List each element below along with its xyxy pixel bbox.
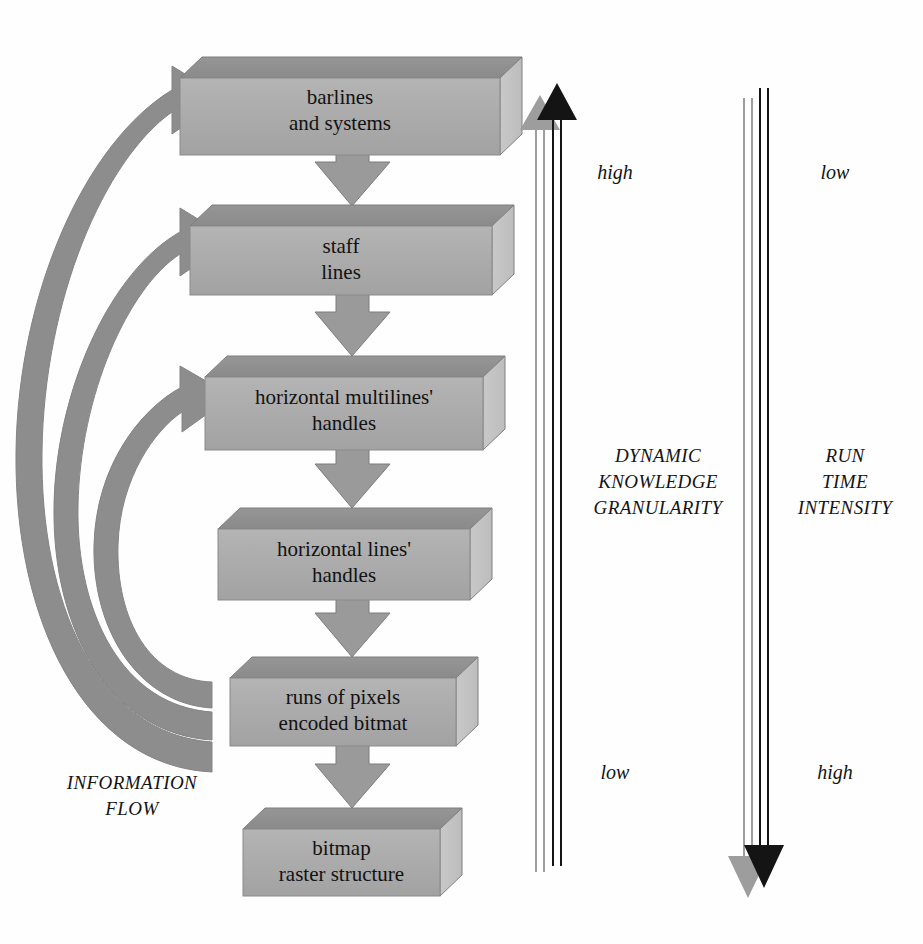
information-flow-label: INFORMATION FLOW (32, 770, 232, 822)
axis-label-run-time-intensity: RUN TIME INTENSITY (780, 443, 910, 521)
axis-top-label-granularity: high (570, 160, 660, 185)
axis-top-label-runtime: low (790, 160, 880, 185)
axis-label-dynamic-knowledge-granularity: DYNAMIC KNOWLEDGE GRANULARITY (578, 443, 738, 521)
axis-arrow-dynamic-knowledge-granularity (520, 83, 577, 872)
diagram-canvas: barlines and systems staff lines horizon… (0, 0, 923, 944)
axis-bottom-label-runtime: high (790, 760, 880, 785)
axis-bottom-label-granularity: low (570, 760, 660, 785)
